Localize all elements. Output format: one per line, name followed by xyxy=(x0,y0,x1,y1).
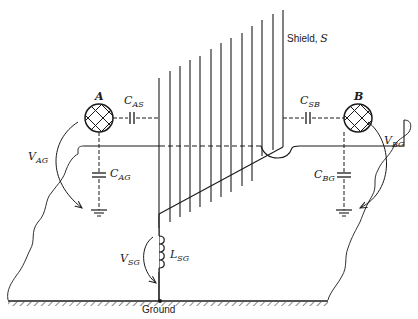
capacitor-c-as: CAS xyxy=(113,94,159,124)
svg-text:CBG: CBG xyxy=(314,168,335,183)
svg-text:CAS: CAS xyxy=(124,94,144,109)
svg-text:VBG: VBG xyxy=(384,134,405,149)
voltage-v-sg: VSG xyxy=(120,237,156,283)
ground-node xyxy=(158,299,162,303)
svg-text:A: A xyxy=(94,90,104,103)
conductor-a: A xyxy=(80,90,120,138)
svg-text:CSB: CSB xyxy=(300,94,320,109)
voltage-v-bg: VBG xyxy=(360,122,405,208)
svg-text:LSG: LSG xyxy=(169,248,190,263)
svg-text:B: B xyxy=(353,90,363,103)
capacitor-c-ag: CAG xyxy=(91,132,131,216)
svg-text:VSG: VSG xyxy=(120,252,140,267)
voltage-v-ag: VAG xyxy=(28,122,82,208)
conductor-b: B xyxy=(339,90,379,138)
svg-text:CAG: CAG xyxy=(110,167,131,182)
capacitor-c-bg: CBG xyxy=(314,132,352,216)
ground-boundary-left xyxy=(8,146,84,300)
inductor-l-sg: LSG xyxy=(159,236,190,268)
shield-label: Shield, S xyxy=(287,32,328,45)
svg-text:VAG: VAG xyxy=(28,150,49,165)
capacitor-c-sb: CSB xyxy=(283,94,344,124)
ground-label: Ground xyxy=(142,304,175,315)
shield-coupling-diagram: Shield, S A CAS CAG VAG xyxy=(0,0,418,319)
